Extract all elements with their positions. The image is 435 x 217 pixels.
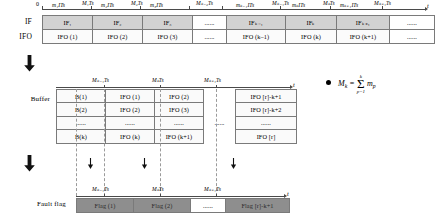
formula-mk-definition: Mk = k Σ p=1 mp bbox=[338, 74, 376, 94]
if-cell-1: IF₁ bbox=[43, 16, 93, 30]
top-axis-label: t bbox=[427, 2, 429, 9]
buffer-cell-r3c3: ...... bbox=[155, 116, 204, 129]
fault-tick-label-2: MₖTs bbox=[152, 186, 164, 192]
buffer-tick-3 bbox=[216, 85, 217, 88]
ifo-cell-k: IFO (k) bbox=[286, 30, 337, 44]
buffer-cell-r3c1: ...... bbox=[57, 116, 106, 129]
buffer-cell-r2c3: IFO (3) bbox=[155, 103, 204, 116]
fault-flag-row: Flag (1) Flag (2) ...... Flag [r]-k+1 bbox=[77, 199, 290, 213]
guide-line-2 bbox=[104, 89, 105, 196]
if-cell-3: IF₃ bbox=[143, 16, 193, 30]
formula-lhs: M bbox=[338, 79, 345, 88]
formula-equals: = bbox=[349, 79, 354, 88]
top-tick-4 bbox=[222, 6, 223, 9]
fault-time-axis bbox=[76, 196, 285, 197]
down-arrow-icon-3 bbox=[230, 158, 237, 170]
if-cell-2: IF₂ bbox=[93, 16, 143, 30]
flow-arrow-top-to-buffer-icon bbox=[24, 55, 35, 72]
ifo-cell-1: IFO (1) bbox=[43, 30, 93, 44]
interval-label-1: m₁ITs bbox=[52, 2, 65, 8]
ifo-cell-k-minus-1: IFO (k–1) bbox=[227, 30, 286, 44]
buffer-cell-r4c1: B(k) bbox=[57, 130, 106, 143]
flag-cell-2: Flag (2) bbox=[134, 199, 191, 213]
buffer-cell-r2c5: IFO [r]-k+2 bbox=[236, 103, 297, 116]
ifo-cell-k-plus-1: IFO (k+1) bbox=[337, 30, 390, 44]
buffer-gap-r1 bbox=[204, 90, 236, 103]
boundary-label-1: M₁Ts bbox=[82, 0, 94, 6]
flag-cell-ellipsis: ...... bbox=[191, 199, 226, 213]
interval-label-4: mₖ₋₁ITs bbox=[236, 2, 254, 8]
ifo-row: IFO (1) IFO (2) IFO (3) ...... IFO (k–1)… bbox=[43, 30, 435, 44]
origin-label: 0 bbox=[36, 1, 39, 7]
ifo-cell-3: IFO (3) bbox=[143, 30, 193, 44]
buffer-gap-r3: ...... bbox=[204, 116, 236, 129]
down-arrow-icon-2 bbox=[141, 158, 148, 170]
legend-bullet-icon bbox=[326, 80, 331, 85]
buffer-tick-label-2: MₖTs bbox=[152, 77, 164, 83]
buffer-row: B(2) IFO (2) IFO (3) IFO [r]-k+2 bbox=[57, 103, 297, 116]
fault-axis-label: t bbox=[287, 190, 289, 197]
top-tick-6 bbox=[330, 6, 331, 9]
guide-line-3 bbox=[160, 89, 161, 196]
buffer-cell-r1c3: IFO (2) bbox=[155, 90, 204, 103]
if-cell-ellipsis-1: ...... bbox=[193, 16, 227, 30]
boundary-label-4: Mₖ₋₁Ts bbox=[272, 0, 289, 6]
if-cell-ellipsis-2: ...... bbox=[390, 16, 435, 30]
fault-tick-1 bbox=[104, 194, 105, 197]
interval-label-3: m₃ITs bbox=[150, 2, 163, 8]
buffer-row: B(k) IFO (k) IFO (k+1) IFO [r] bbox=[57, 130, 297, 143]
flag-cell-last: Flag [r]-k+1 bbox=[226, 199, 290, 213]
top-tick-0 bbox=[42, 6, 43, 9]
formula-lhs-subscript: k bbox=[345, 83, 348, 89]
buffer-cell-r1c1: B(1) bbox=[57, 90, 106, 103]
buffer-row: ...... ...... ...... ...... ...... bbox=[57, 116, 297, 129]
if-row: IF₁ IF₂ IF₃ ...... IFₖ₋₁ IFₖ IFₖ₊₁ .....… bbox=[43, 16, 435, 30]
buffer-time-axis bbox=[56, 87, 291, 88]
flag-cell-1: Flag (1) bbox=[77, 199, 134, 213]
top-tick-7 bbox=[382, 6, 383, 9]
interval-label-2: m₂ITs bbox=[101, 2, 114, 8]
down-arrow-icon-1 bbox=[87, 158, 94, 170]
fault-flag-table: Flag (1) Flag (2) ...... Flag [r]-k+1 bbox=[76, 198, 290, 213]
if-cell-k-plus-1: IFₖ₊₁ bbox=[337, 16, 390, 30]
guide-line-4 bbox=[216, 89, 217, 196]
fault-tick-label-1: Mₖ₋₁Ts bbox=[92, 186, 109, 192]
row-label-buffer: Buffer bbox=[2, 95, 50, 103]
buffer-cell-r4c3: IFO (k+1) bbox=[155, 130, 204, 143]
buffer-cell-r4c2: IFO (k) bbox=[106, 130, 155, 143]
buffer-cell-r2c1: B(2) bbox=[57, 103, 106, 116]
buffer-cell-r3c5: ...... bbox=[236, 116, 297, 129]
ifo-cell-2: IFO (2) bbox=[93, 30, 143, 44]
formula-term-subscript: p bbox=[373, 83, 376, 89]
buffer-cell-r1c5: IFO [r]-k+1 bbox=[236, 90, 297, 103]
ifo-cell-ellipsis-2: ...... bbox=[390, 30, 435, 44]
top-tick-3 bbox=[189, 6, 190, 9]
top-time-axis bbox=[42, 9, 426, 10]
fault-tick-3 bbox=[216, 194, 217, 197]
top-tick-5 bbox=[280, 6, 281, 9]
fault-tick-2 bbox=[160, 194, 161, 197]
buffer-gap-r2 bbox=[204, 103, 236, 116]
boundary-label-6: Mₖ₊₁Ts bbox=[374, 0, 391, 6]
fault-tick-label-3: Mₖ₊₁Ts bbox=[204, 186, 221, 192]
row-label-ifo: IFO bbox=[2, 32, 32, 41]
buffer-cell-r4c5: IFO [r] bbox=[236, 130, 297, 143]
row-label-if: IF bbox=[6, 17, 32, 26]
if-ifo-table: IF₁ IF₂ IF₃ ...... IFₖ₋₁ IFₖ IFₖ₊₁ .....… bbox=[42, 15, 435, 44]
buffer-cell-r3c2: ...... bbox=[106, 116, 155, 129]
summation-operator: k Σ p=1 bbox=[357, 74, 365, 94]
buffer-tick-2 bbox=[160, 85, 161, 88]
boundary-label-2: M₂Ts bbox=[131, 0, 143, 6]
buffer-gap-r4 bbox=[204, 130, 236, 143]
buffer-tick-label-1: Mₖ₋₁Ts bbox=[92, 77, 109, 83]
buffer-row: B(1) IFO (1) IFO (2) IFO [r]-k+1 bbox=[57, 90, 297, 103]
if-cell-k: IFₖ bbox=[286, 16, 337, 30]
buffer-cell-r2c2: IFO (2) bbox=[106, 103, 155, 116]
sigma-icon: Σ bbox=[357, 79, 365, 89]
flow-arrow-buffer-to-fault-icon bbox=[24, 155, 35, 172]
if-cell-k-minus-1: IFₖ₋₁ bbox=[227, 16, 286, 30]
guide-line-1 bbox=[76, 89, 77, 196]
ifo-cell-ellipsis-1: ...... bbox=[193, 30, 227, 44]
buffer-table: B(1) IFO (1) IFO (2) IFO [r]-k+1 B(2) IF… bbox=[56, 89, 297, 144]
